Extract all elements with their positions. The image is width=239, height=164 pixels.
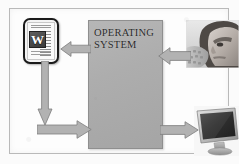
figure-frame: OPERATING SYSTEM W: [9, 8, 229, 154]
person-at-keyboard-photo: [186, 20, 239, 68]
arrow-os-to-application: [60, 41, 91, 57]
computer-monitor-photo: [194, 106, 239, 156]
document-footer-lines: [31, 51, 51, 56]
arrow-user-to-os: [158, 47, 191, 65]
word-document-icon: W: [23, 18, 59, 64]
document-header-lines: [31, 25, 51, 29]
word-letter-badge: W: [29, 31, 46, 48]
arrow-application-to-os: [37, 120, 92, 139]
operating-system-box: OPERATING SYSTEM: [88, 20, 163, 149]
arrow-os-to-display: [160, 121, 199, 139]
operating-system-label: OPERATING SYSTEM: [94, 27, 162, 51]
figure-canvas: OPERATING SYSTEM W: [0, 0, 239, 164]
arrow-application-down: [37, 61, 53, 126]
